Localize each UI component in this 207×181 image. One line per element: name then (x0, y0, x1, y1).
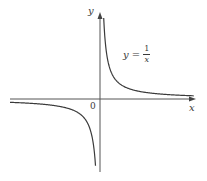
equation-numerator: 1 (144, 45, 149, 53)
x-axis-label: x (189, 103, 195, 113)
curve-negative-branch (10, 102, 96, 165)
equation-lhs: y = (123, 50, 140, 60)
equation-fraction: 1 x (143, 45, 150, 64)
x-axis-arrow-icon (189, 97, 196, 102)
equation-label: y = 1 x (123, 45, 150, 64)
y-axis-arrow-icon (98, 12, 103, 19)
origin-label: 0 (90, 102, 96, 111)
hyperbola-figure: y x 0 y = 1 x (0, 0, 207, 181)
plot-area (0, 0, 207, 181)
y-axis-label: y (88, 6, 94, 16)
equation-denominator: x (144, 56, 149, 64)
